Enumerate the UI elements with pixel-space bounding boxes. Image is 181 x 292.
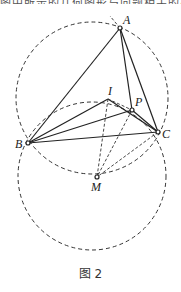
geometry-figure: A B C I P M (0, 0, 181, 292)
label-p: P (134, 95, 143, 109)
figure-caption: 图 2 (0, 264, 181, 281)
label-c: C (162, 127, 171, 141)
label-i: I (107, 84, 113, 98)
circle-bic (18, 102, 166, 250)
solid-segments (28, 28, 158, 143)
label-m: M (90, 180, 102, 194)
dashed-segments (97, 16, 158, 177)
label-a: A (122, 13, 131, 27)
label-b: B (15, 137, 23, 151)
